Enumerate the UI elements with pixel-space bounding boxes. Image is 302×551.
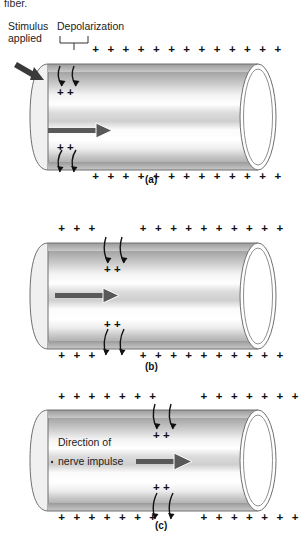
direction-label-bullet xyxy=(51,461,53,463)
charge-plus: + xyxy=(84,391,99,403)
charge-plus: + xyxy=(130,512,145,524)
charge-plus: + xyxy=(194,171,209,183)
charge-plus: + xyxy=(196,223,211,235)
charge-plus: + xyxy=(69,512,84,524)
charge-plus: + xyxy=(69,223,84,235)
charge-plus: + xyxy=(151,350,166,362)
membrane-top-b xyxy=(48,243,258,251)
charge-plus: + xyxy=(145,391,160,403)
direction-label-line2: nerve impulse xyxy=(58,455,123,468)
charge-plus: + xyxy=(164,171,179,183)
charge-plus: + xyxy=(255,171,270,183)
charge-plus: + xyxy=(257,391,272,403)
inner-plus-top-c: + + xyxy=(153,430,170,442)
outer-plus-row-bottom-b: +++++++++++++ xyxy=(54,350,287,362)
charge-plus: + xyxy=(255,44,270,56)
charge-plus: + xyxy=(149,44,164,56)
charge-plus: + xyxy=(225,171,240,183)
charge-plus: + xyxy=(212,350,227,362)
charge-plus: + xyxy=(212,512,227,524)
panel-a: Stimulus applied Depolarization xyxy=(0,18,302,193)
charge-plus: + xyxy=(212,391,227,403)
charge-plus: + xyxy=(210,171,225,183)
charge-plus: + xyxy=(69,391,84,403)
charge-plus: + xyxy=(227,350,242,362)
charge-plus: + xyxy=(240,44,255,56)
panel-b: +++++++++++++ +++++++++++++ + + + + (b) xyxy=(0,203,302,378)
charge-plus: + xyxy=(69,350,84,362)
outer-plus-row-top-a: +++++++++++++ xyxy=(88,44,285,56)
charge-plus: + xyxy=(103,44,118,56)
direction-label-line1: Direction of xyxy=(58,436,111,449)
charge-plus: + xyxy=(118,44,133,56)
clipped-caption: fiber. xyxy=(4,0,27,9)
charge-plus: + xyxy=(100,512,115,524)
charge-plus: + xyxy=(196,512,211,524)
cylinder-left-cap-c xyxy=(30,410,48,511)
charge-plus: + xyxy=(118,171,133,183)
panel-c: Direction of nerve impulse +++++++++++++… xyxy=(0,383,302,551)
charge-plus: + xyxy=(151,223,166,235)
charge-plus: + xyxy=(270,171,285,183)
charge-plus: + xyxy=(54,350,69,362)
inner-plus-top-a: + + xyxy=(57,87,74,99)
charge-plus: + xyxy=(240,171,255,183)
charge-plus: + xyxy=(134,44,149,56)
charge-plus: + xyxy=(181,223,196,235)
inner-plus-bottom-a: + + xyxy=(57,142,74,154)
charge-plus: + xyxy=(88,44,103,56)
charge-gap xyxy=(100,223,136,235)
charge-plus: + xyxy=(54,223,69,235)
charge-plus: + xyxy=(272,391,287,403)
outer-plus-row-top-c: ++++++++++++++ xyxy=(54,391,302,403)
panel-c-graphic xyxy=(0,383,302,551)
charge-plus: + xyxy=(227,223,242,235)
charge-plus: + xyxy=(54,512,69,524)
charge-plus: + xyxy=(272,350,287,362)
panel-letter-c: (c) xyxy=(155,520,167,531)
charge-plus: + xyxy=(212,223,227,235)
charge-plus: + xyxy=(166,223,181,235)
charge-plus: + xyxy=(136,223,151,235)
charge-plus: + xyxy=(166,350,181,362)
cylinder-left-cap-b xyxy=(30,243,48,349)
charge-plus: + xyxy=(257,512,272,524)
charge-plus: + xyxy=(287,512,302,524)
outer-plus-row-bottom-a: +++++++++++++ xyxy=(88,171,285,183)
panel-letter-a: (a) xyxy=(145,174,157,185)
inner-plus-bottom-b: + + xyxy=(104,319,121,331)
charge-plus: + xyxy=(227,512,242,524)
charge-plus: + xyxy=(103,171,118,183)
charge-plus: + xyxy=(287,391,302,403)
membrane-bottom-a xyxy=(48,162,258,170)
charge-plus: + xyxy=(225,44,240,56)
charge-plus: + xyxy=(272,223,287,235)
charge-plus: + xyxy=(115,512,130,524)
charge-plus: + xyxy=(270,44,285,56)
inner-plus-top-b: + + xyxy=(104,264,121,276)
charge-plus: + xyxy=(196,391,211,403)
charge-plus: + xyxy=(272,512,287,524)
charge-plus: + xyxy=(257,350,272,362)
charge-plus: + xyxy=(242,350,257,362)
charge-plus: + xyxy=(84,350,99,362)
charge-plus: + xyxy=(130,391,145,403)
charge-plus: + xyxy=(242,512,257,524)
charge-plus: + xyxy=(115,391,130,403)
charge-plus: + xyxy=(136,350,151,362)
outer-plus-row-top-b: +++++++++++++ xyxy=(54,223,287,235)
charge-plus: + xyxy=(210,44,225,56)
charge-plus: + xyxy=(88,171,103,183)
charge-plus: + xyxy=(181,350,196,362)
charge-plus: + xyxy=(100,391,115,403)
charge-gap xyxy=(100,350,136,362)
charge-gap xyxy=(160,391,196,403)
inner-plus-bottom-c: + + xyxy=(153,482,170,494)
membrane-bottom-b xyxy=(48,341,258,349)
outer-plus-row-bottom-c: ++++++++++++++ xyxy=(54,512,302,524)
panel-letter-b: (b) xyxy=(145,361,158,372)
charge-plus: + xyxy=(84,512,99,524)
charge-plus: + xyxy=(54,391,69,403)
charge-plus: + xyxy=(196,350,211,362)
cylinder-body-a xyxy=(48,64,258,170)
